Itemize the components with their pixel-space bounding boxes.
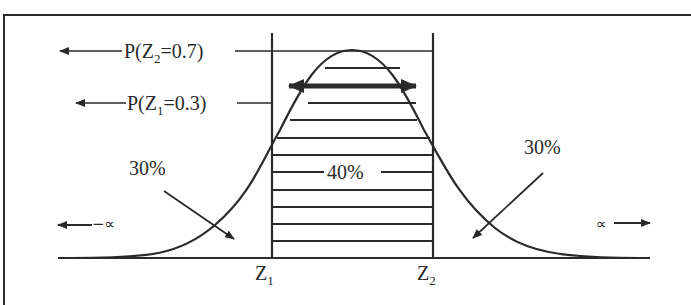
p-z2-annotation: P(Z2=0.7) <box>60 40 272 66</box>
p-z1-annotation: P(Z1=0.3) <box>76 92 272 118</box>
center-region-hatching <box>272 51 433 241</box>
left-tail-annotation: 30% <box>129 157 234 239</box>
svg-text:P(Z2=0.7): P(Z2=0.7) <box>124 40 203 66</box>
right-tail-annotation: 30% <box>473 136 561 238</box>
left-percent-label: 30% <box>129 157 166 179</box>
positive-infinity-label: ∝ <box>596 215 607 233</box>
negative-infinity-label: −∝ <box>92 215 115 233</box>
svg-text:P(Z1=0.3): P(Z1=0.3) <box>127 92 206 118</box>
normal-distribution-diagram: P(Z2=0.7) P(Z1=0.3) 40% 30% 30% −∝ ∝ Z1 … <box>0 0 691 305</box>
z2-label: Z2 <box>417 262 436 288</box>
frame <box>3 14 691 305</box>
right-percent-label: 30% <box>524 136 561 158</box>
positive-infinity-annotation: ∝ <box>596 215 650 233</box>
negative-infinity-annotation: −∝ <box>58 215 115 233</box>
center-percent-label: 40% <box>327 161 364 183</box>
z1-label: Z1 <box>255 262 274 288</box>
